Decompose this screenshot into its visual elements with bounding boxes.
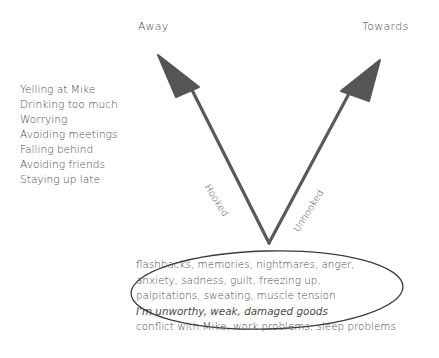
- inner-experience-item: anxiety, sadness, guilt, freezing up,: [136, 273, 396, 289]
- towards-arrow-icon: [269, 60, 380, 243]
- inner-experiences-list: flashbacks, memories, nightmares, anger,…: [136, 257, 396, 335]
- behavior-item: Drinking too much: [20, 97, 118, 112]
- away-arrow-icon: [158, 55, 269, 243]
- inner-experience-item: flashbacks, memories, nightmares, anger,: [136, 257, 396, 273]
- behavior-item: Worrying: [20, 112, 118, 127]
- behavior-item: Falling behind: [20, 142, 118, 157]
- behavior-item: Avoiding friends: [20, 157, 118, 172]
- inner-experience-item: palpitations, sweating, muscle tension: [136, 288, 396, 304]
- inner-experience-item: conflict with Mike, work problems, sleep…: [136, 319, 396, 335]
- behavior-item: Yelling at Mike: [20, 82, 118, 97]
- behavior-item: Avoiding meetings: [20, 127, 118, 142]
- behavior-item: Staying up late: [20, 172, 118, 187]
- inner-experience-item: I'm unworthy, weak, damaged goods: [136, 304, 396, 320]
- away-behaviors-list: Yelling at Mike Drinking too much Worryi…: [20, 82, 118, 187]
